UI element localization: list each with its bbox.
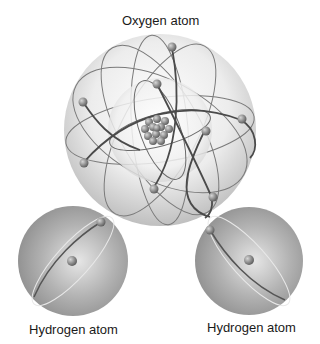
hydrogen-nucleus [67,256,77,266]
hydrogen-atom-right-label: Hydrogen atom [207,320,296,335]
hydrogen-nucleus [244,255,254,265]
hydrogen-atom-left [18,206,128,316]
hydrogen-atom-left-label: Hydrogen atom [29,322,118,337]
oxygen-atom [53,28,268,233]
oxygen-atom-label: Oxygen atom [122,13,199,28]
hydrogen-electron [206,226,215,235]
hydrogen-electron [97,218,106,227]
diagram-canvas [0,0,320,344]
hydrogen-atom-right [195,207,303,316]
